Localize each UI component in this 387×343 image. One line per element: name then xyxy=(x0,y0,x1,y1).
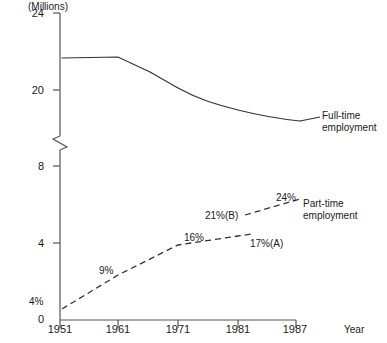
y-tick-label-8: 8 xyxy=(22,160,44,173)
y-tick-label-24: 24 xyxy=(22,7,44,20)
annotation-16-percent: 16% xyxy=(184,232,204,244)
series-label-full-time-line1: Full-time xyxy=(322,110,360,122)
x-tick-label-1951: 1951 xyxy=(40,323,80,336)
y-axis-break-icon xyxy=(53,136,67,150)
x-tick-label-1987: 1987 xyxy=(275,323,315,336)
series-label-part-time-line2: employment xyxy=(303,210,357,222)
y-tick-label-4: 4 xyxy=(22,237,44,250)
annotation-17-percent-a: 17%(A) xyxy=(250,238,283,250)
leader-line-full-time xyxy=(300,117,320,121)
annotation-4-percent: 4% xyxy=(29,296,43,308)
series-label-full-time-line2: employment xyxy=(322,122,376,134)
x-tick-label-1981: 1981 xyxy=(218,323,258,336)
annotation-24-percent: 24% xyxy=(276,192,296,204)
annotation-9-percent: 9% xyxy=(99,265,113,277)
employment-trend-chart: (Millions) 24 20 8 4 0 1951 1961 1971 19… xyxy=(0,0,387,343)
annotation-21-percent-b: 21%(B) xyxy=(205,210,238,222)
x-axis-title: Year xyxy=(344,324,364,336)
series-line-full-time xyxy=(62,57,300,121)
y-tick-label-20: 20 xyxy=(22,84,44,97)
x-tick-label-1971: 1971 xyxy=(158,323,198,336)
chart-plot-area xyxy=(0,0,387,343)
x-tick-label-1961: 1961 xyxy=(98,323,138,336)
series-line-part-time xyxy=(62,234,252,309)
series-label-part-time-line1: Part-time xyxy=(303,198,344,210)
